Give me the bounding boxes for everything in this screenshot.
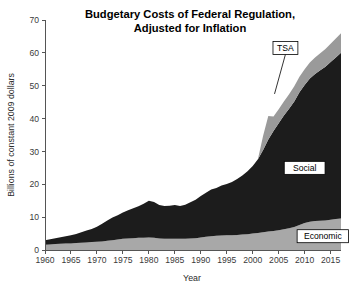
- y-tick-label: 40: [29, 114, 39, 124]
- y-axis-title: Billions of constant 2009 dollars: [6, 73, 16, 197]
- y-tick-label: 50: [29, 81, 39, 91]
- stacked-area-chart: Budgetary Costs of Federal Regulation, A…: [0, 0, 351, 286]
- y-tick-label: 60: [29, 48, 39, 58]
- y-tick-label: 10: [29, 212, 39, 222]
- x-tick-label: 2000: [243, 255, 262, 265]
- chart-title-line1: Budgetary Costs of Federal Regulation,: [85, 8, 295, 20]
- x-tick-label: 2015: [321, 255, 340, 265]
- y-tick-label: 70: [29, 15, 39, 25]
- x-tick-label: 1965: [61, 255, 80, 265]
- chart-title-line2: Adjusted for Inflation: [134, 22, 247, 34]
- x-tick-label: 1970: [87, 255, 106, 265]
- chart-figure: Budgetary Costs of Federal Regulation, A…: [0, 0, 351, 286]
- x-axis-title: Year: [183, 273, 201, 283]
- annotation-label-tsa: TSA: [277, 43, 294, 53]
- y-tick-label: 0: [34, 245, 39, 255]
- x-tick-label: 1975: [113, 255, 132, 265]
- x-tick-label: 1985: [165, 255, 184, 265]
- x-tick-label: 1960: [35, 255, 54, 265]
- annotation-label-economic: Economic: [304, 231, 342, 241]
- x-tick-label: 1990: [191, 255, 210, 265]
- x-tick-label: 2010: [295, 255, 314, 265]
- x-tick-label: 1995: [217, 255, 236, 265]
- y-tick-label: 30: [29, 147, 39, 157]
- y-tick-label: 20: [29, 179, 39, 189]
- x-tick-label: 1980: [139, 255, 158, 265]
- x-tick-label: 2005: [269, 255, 288, 265]
- annotation-label-social: Social: [293, 163, 316, 173]
